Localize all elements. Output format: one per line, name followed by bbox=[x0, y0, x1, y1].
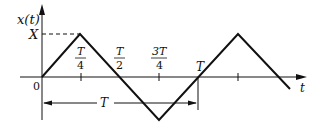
tick-label-3t4-num: 3T bbox=[152, 45, 168, 58]
period-arrow-right bbox=[188, 101, 197, 106]
x-axis-label: t bbox=[300, 81, 305, 95]
tick-label-3t4-den: 4 bbox=[156, 59, 163, 72]
y-axis-label: x(t) bbox=[17, 12, 40, 27]
tick-label-t2-num: T bbox=[116, 45, 125, 58]
period-arrow-left bbox=[43, 101, 52, 106]
y-axis-arrowhead bbox=[39, 4, 45, 15]
x-axis-arrowhead bbox=[296, 74, 307, 80]
amplitude-label: X bbox=[28, 27, 39, 42]
tick-label-t4-num: T bbox=[77, 45, 86, 58]
tick-label-t4-den: 4 bbox=[77, 59, 84, 72]
period-tick-label: T bbox=[196, 60, 205, 74]
triangle-wave-diagram: x(t) X 0 t T 4 T 2 3T 4 T T bbox=[0, 0, 321, 127]
tick-label-t2-den: 2 bbox=[116, 59, 123, 72]
origin-label: 0 bbox=[33, 80, 40, 93]
period-span-label: T bbox=[100, 96, 109, 110]
